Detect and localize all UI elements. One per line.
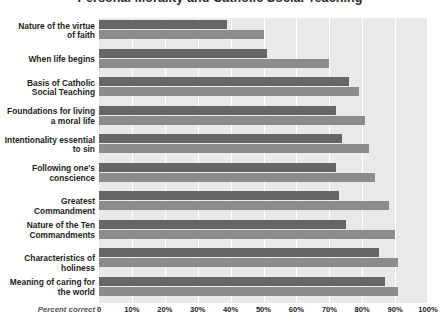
- category-label-line: When life begins: [0, 55, 95, 65]
- category-label: Greatest Commandment: [0, 197, 95, 216]
- bar-series-b: [99, 173, 375, 182]
- category-label-line: Commandments: [0, 231, 95, 241]
- category-label-line: conscience: [0, 174, 95, 184]
- bar-series-b: [99, 116, 365, 125]
- bar-series-a: [99, 220, 346, 229]
- bar-series-a: [99, 191, 339, 200]
- bar-series-b: [99, 258, 398, 267]
- gridline-100: [428, 18, 429, 303]
- bar-series-a: [99, 134, 342, 143]
- plot-area: [99, 18, 428, 303]
- category-label-line: a moral life: [0, 117, 95, 127]
- bar-series-a: [99, 277, 385, 286]
- bar-row: [99, 246, 428, 275]
- category-label: Nature of the TenCommandments: [0, 221, 95, 240]
- bar-row: [99, 47, 428, 76]
- bar-series-b: [99, 287, 398, 296]
- chart-container: Personal Morality and Catholic Social Te…: [0, 0, 440, 330]
- bar-series-a: [99, 163, 336, 172]
- x-tick-label: 30%: [190, 305, 205, 314]
- category-label-line: Greatest Commandment: [0, 197, 95, 216]
- bar-row: [99, 218, 428, 247]
- x-tick-label: 20%: [157, 305, 172, 314]
- plot-right-edge: [427, 18, 428, 303]
- category-label: When life begins: [0, 55, 95, 65]
- x-axis-ticks: 010%20%30%40%50%60%70%80%90%100%: [99, 303, 428, 319]
- bar-series-a: [99, 106, 336, 115]
- category-label: Basis of CatholicSocial Teaching: [0, 79, 95, 98]
- x-tick-label: 0: [97, 305, 101, 314]
- x-tick-label: 80%: [355, 305, 370, 314]
- bar-series-a: [99, 20, 227, 29]
- bar-row: [99, 132, 428, 161]
- x-tick-label: 40%: [223, 305, 238, 314]
- bar-row: [99, 275, 428, 304]
- bar-series-b: [99, 201, 389, 210]
- category-label: Following one'sconscience: [0, 164, 95, 183]
- x-tick-label: 90%: [387, 305, 402, 314]
- bar-rows: [99, 18, 428, 303]
- category-label-line: to sin: [0, 145, 95, 155]
- category-axis-labels: Nature of the virtueof faithWhen life be…: [0, 18, 95, 303]
- bar-series-a: [99, 77, 349, 86]
- category-label-line: of faith: [0, 31, 95, 41]
- category-label-line: Social Teaching: [0, 88, 95, 98]
- bar-row: [99, 18, 428, 47]
- category-label: Foundations for livinga moral life: [0, 107, 95, 126]
- category-label-line: the world: [0, 288, 95, 298]
- category-label: Meaning of caring forthe world: [0, 278, 95, 297]
- x-axis-label: Percent correct: [0, 305, 95, 314]
- category-label: Nature of the virtueof faith: [0, 22, 95, 41]
- bar-series-b: [99, 230, 395, 239]
- category-label: Intentionality essentialto sin: [0, 136, 95, 155]
- category-label: Characteristics of holiness: [0, 254, 95, 273]
- bar-series-b: [99, 87, 359, 96]
- x-tick-label: 100%: [418, 305, 437, 314]
- bar-row: [99, 189, 428, 218]
- x-tick-label: 10%: [124, 305, 139, 314]
- x-tick-label: 70%: [322, 305, 337, 314]
- bar-row: [99, 161, 428, 190]
- bar-row: [99, 75, 428, 104]
- bar-series-a: [99, 49, 267, 58]
- bar-series-a: [99, 248, 379, 257]
- chart-title: Personal Morality and Catholic Social Te…: [0, 0, 440, 5]
- x-tick-label: 60%: [289, 305, 304, 314]
- bar-series-b: [99, 30, 264, 39]
- x-tick-label: 50%: [256, 305, 271, 314]
- bar-series-b: [99, 59, 329, 68]
- bar-row: [99, 104, 428, 133]
- bar-series-b: [99, 144, 369, 153]
- category-label-line: Characteristics of holiness: [0, 254, 95, 273]
